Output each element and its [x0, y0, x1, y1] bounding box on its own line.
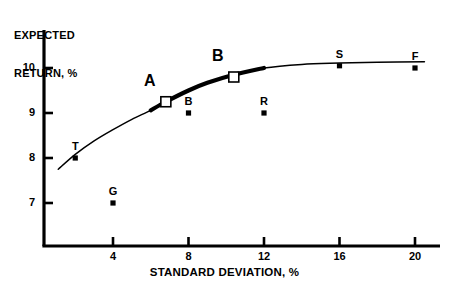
y-tick-label-9: 9: [11, 106, 35, 118]
point-label-f-05: F: [405, 50, 425, 62]
series-individual-assets: [73, 63, 418, 205]
data-point-b-02: [186, 110, 191, 115]
point-label-s-04: S: [330, 48, 350, 60]
data-point-g-01: [110, 200, 115, 205]
y-tick-label-10: 10: [11, 61, 35, 73]
chart-figure: EXPECTED RETURN, % 7891048121620 TGBRSFA…: [0, 0, 449, 292]
data-point-b-11: [229, 72, 239, 82]
x-tick-label-8: 8: [177, 250, 201, 262]
data-point-r-03: [261, 110, 266, 115]
point-label-t-00: T: [65, 140, 85, 152]
y-tick-label-8: 8: [11, 151, 35, 163]
point-label-b-02: B: [179, 95, 199, 107]
data-point-s-04: [337, 63, 342, 68]
x-axis-title: STANDARD DEVIATION, %: [0, 266, 449, 279]
point-label-b-11: B: [208, 47, 228, 65]
axis-ticks: [44, 68, 415, 246]
point-label-r-03: R: [254, 95, 274, 107]
x-tick-label-12: 12: [252, 250, 276, 262]
frontier-curve: [58, 62, 424, 170]
data-point-a-10: [161, 97, 171, 107]
data-point-f-05: [412, 65, 417, 70]
x-tick-label-4: 4: [101, 250, 125, 262]
point-label-a-10: A: [140, 72, 160, 90]
point-label-g-01: G: [103, 185, 123, 197]
y-tick-label-7: 7: [11, 196, 35, 208]
x-tick-label-16: 16: [328, 250, 352, 262]
x-tick-label-20: 20: [403, 250, 427, 262]
data-point-t-00: [73, 155, 78, 160]
